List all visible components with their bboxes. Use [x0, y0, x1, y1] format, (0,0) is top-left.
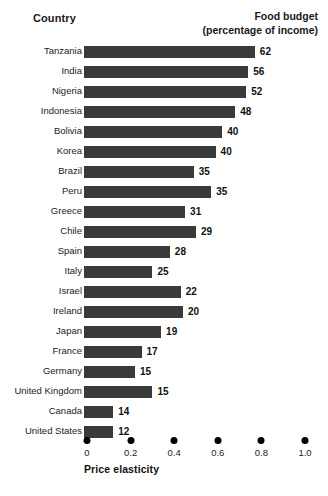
bar-row-country-label: Nigeria [0, 85, 82, 96]
bar-row-country-label: Bolivia [0, 125, 82, 136]
bar-value-label: 20 [188, 306, 199, 317]
bar-row: Canada14 [0, 404, 328, 424]
bar-value-label: 52 [251, 86, 262, 97]
bar-row-country-label: Brazil [0, 165, 82, 176]
bar-row-country-label: United Kingdom [0, 385, 82, 396]
x-axis-tick-dot [84, 437, 91, 444]
bar [84, 246, 170, 258]
x-axis-tick-label: 0.8 [255, 447, 268, 458]
bar [84, 166, 194, 178]
food-budget-price-elasticity-chart: Country Food budget (percentage of incom… [0, 0, 328, 496]
bar-value-label: 17 [147, 346, 158, 357]
bar-row: Greece31 [0, 204, 328, 224]
x-axis-tick-dot [302, 437, 309, 444]
x-axis-tick-dot [258, 437, 265, 444]
bar-row-country-label: Italy [0, 265, 82, 276]
bar [84, 366, 135, 378]
bar-row: Japan19 [0, 324, 328, 344]
bar [84, 306, 183, 318]
bar-row-country-label: Indonesia [0, 105, 82, 116]
bar-row-country-label: France [0, 345, 82, 356]
bar [84, 206, 185, 218]
x-axis-tick-label: 0.4 [168, 447, 181, 458]
x-axis-tick-label: 0 [84, 447, 89, 458]
bar-row: Nigeria52 [0, 84, 328, 104]
bar-row: Korea40 [0, 144, 328, 164]
bar-row-country-label: Greece [0, 205, 82, 216]
bar [84, 86, 246, 98]
bar-value-label: 22 [186, 286, 197, 297]
bar-row: Peru35 [0, 184, 328, 204]
bar-row: Spain28 [0, 244, 328, 264]
bar-row-country-label: Peru [0, 185, 82, 196]
bar-value-label: 25 [157, 266, 168, 277]
bar-row: Indonesia48 [0, 104, 328, 124]
bar [84, 146, 216, 158]
bar-row: India56 [0, 64, 328, 84]
bar-row-country-label: Ireland [0, 305, 82, 316]
x-axis-tick-label: 0.6 [211, 447, 224, 458]
bar-row: Germany15 [0, 364, 328, 384]
value-column-header: Food budget (percentage of income) [202, 10, 318, 37]
bar [84, 126, 222, 138]
chart-header: Country Food budget (percentage of incom… [0, 10, 328, 40]
bar [84, 266, 152, 278]
bar-row-country-label: Spain [0, 245, 82, 256]
x-axis-title: Price elasticity [84, 463, 159, 475]
bar-row-country-label: Tanzania [0, 45, 82, 56]
bar-value-label: 35 [199, 166, 210, 177]
bar [84, 106, 235, 118]
bar [84, 46, 255, 58]
bar [84, 66, 248, 78]
bar-value-label: 48 [240, 106, 251, 117]
bar-value-label: 62 [260, 46, 271, 57]
bar-value-label: 31 [190, 206, 201, 217]
bar [84, 346, 142, 358]
bar-row: Israel22 [0, 284, 328, 304]
country-column-header: Country [33, 12, 76, 24]
x-axis-tick-label: 0.2 [124, 447, 137, 458]
bar [84, 186, 211, 198]
bar-row: Chile29 [0, 224, 328, 244]
bar-row: France17 [0, 344, 328, 364]
bar-value-label: 40 [227, 126, 238, 137]
x-axis-tick-label: 1.0 [298, 447, 311, 458]
bar-row: Bolivia40 [0, 124, 328, 144]
value-column-header-line1: Food budget [202, 10, 318, 24]
bar-row-country-label: Japan [0, 325, 82, 336]
bar-value-label: 15 [140, 366, 151, 377]
x-axis-tick-dot [214, 437, 221, 444]
bar-row-country-label: Israel [0, 285, 82, 296]
bar-row-country-label: India [0, 65, 82, 76]
x-axis-tick-dot [171, 437, 178, 444]
bar-rows: Tanzania62India56Nigeria52Indonesia48Bol… [0, 44, 328, 444]
bar-row: United Kingdom15 [0, 384, 328, 404]
bar-row: Tanzania62 [0, 44, 328, 64]
bar-value-label: 29 [201, 226, 212, 237]
bar [84, 386, 152, 398]
bar-value-label: 40 [221, 146, 232, 157]
bar-row: Ireland20 [0, 304, 328, 324]
bar [84, 286, 181, 298]
bar [84, 326, 161, 338]
bar [84, 226, 196, 238]
bar-value-label: 35 [216, 186, 227, 197]
bar [84, 406, 113, 418]
bar-row-country-label: Canada [0, 405, 82, 416]
bar-row-country-label: Germany [0, 365, 82, 376]
bar-row: Italy25 [0, 264, 328, 284]
bar-value-label: 14 [118, 406, 129, 417]
bar-value-label: 19 [166, 326, 177, 337]
bar-row-country-label: Korea [0, 145, 82, 156]
bar-value-label: 15 [157, 386, 168, 397]
x-axis-tick-dot [127, 437, 134, 444]
value-column-header-line2: (percentage of income) [202, 24, 318, 38]
bar-value-label: 56 [253, 66, 264, 77]
x-axis: Price elasticity 00.20.40.60.81.0 [0, 434, 328, 494]
bar-row-country-label: Chile [0, 225, 82, 236]
bar-row: Brazil35 [0, 164, 328, 184]
bar-value-label: 28 [175, 246, 186, 257]
